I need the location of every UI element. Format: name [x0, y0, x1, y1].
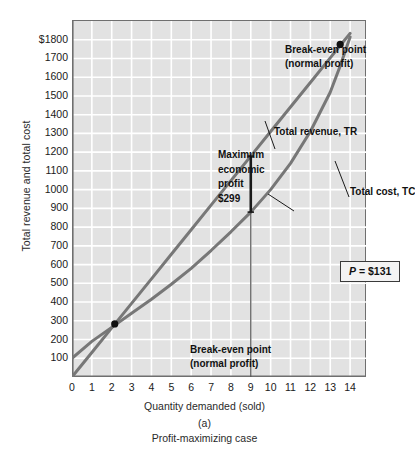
y-tick-label: 1000	[20, 184, 68, 194]
panel-caption: Profit-maximizing case	[0, 432, 409, 444]
annotation-break-even-upper: Break-even point (normal profit)	[285, 43, 366, 70]
y-tick-label: 400	[20, 296, 68, 306]
y-axis-tick-labels: 1002003004005006007008009001000110012001…	[20, 20, 68, 376]
annotation-total-cost-label: Total cost, TC	[350, 185, 415, 199]
y-tick-label: 1500	[20, 90, 68, 100]
y-tick-label: $1800	[20, 34, 68, 44]
x-tick-label: 14	[338, 381, 362, 393]
annotation-break-even-lower: Break-even point (normal profit)	[190, 343, 271, 370]
annotation-maximum-economic-profit: Maximum economic profit $299	[218, 148, 265, 206]
annotation-max-profit-line3: profit	[218, 177, 265, 192]
price-symbol: P	[349, 265, 356, 277]
x-axis-title: Quantity demanded (sold)	[0, 400, 409, 412]
annotation-max-profit-line2: economic	[218, 163, 265, 178]
price-value: = $131	[356, 265, 391, 277]
y-tick-label: 900	[20, 202, 68, 212]
annotation-max-profit-line1: Maximum	[218, 148, 265, 163]
annotation-break-even-lower-line1: Break-even point	[190, 343, 271, 357]
y-tick-label: 200	[20, 334, 68, 344]
y-tick-label: 100	[20, 352, 68, 362]
y-tick-label: 1400	[20, 109, 68, 119]
annotation-break-even-upper-line2: (normal profit)	[285, 57, 366, 71]
y-tick-label: 500	[20, 277, 68, 287]
price-callout-box: P = $131	[340, 261, 400, 282]
y-tick-label: 1100	[20, 165, 68, 175]
leader-total-cost	[335, 161, 349, 197]
marker-break-even-lower	[111, 320, 118, 327]
annotation-total-revenue-label: Total revenue, TR	[274, 125, 357, 139]
y-tick-label: 700	[20, 240, 68, 250]
y-tick-label: 600	[20, 259, 68, 269]
y-tick-label: 800	[20, 221, 68, 231]
y-tick-label: 1200	[20, 146, 68, 156]
annotation-max-profit-line4: $299	[218, 192, 265, 207]
y-tick-label: 1300	[20, 127, 68, 137]
x-axis-tick-labels: 01234567891011121314	[72, 381, 366, 397]
plot-area: Break-even point (normal profit) Break-e…	[72, 20, 366, 376]
annotation-break-even-upper-line1: Break-even point	[285, 43, 366, 57]
panel-letter: (a)	[0, 417, 409, 429]
y-tick-label: 300	[20, 315, 68, 325]
annotation-break-even-lower-line2: (normal profit)	[190, 357, 271, 371]
y-tick-label: 1700	[20, 52, 68, 62]
y-tick-label: 1600	[20, 71, 68, 81]
